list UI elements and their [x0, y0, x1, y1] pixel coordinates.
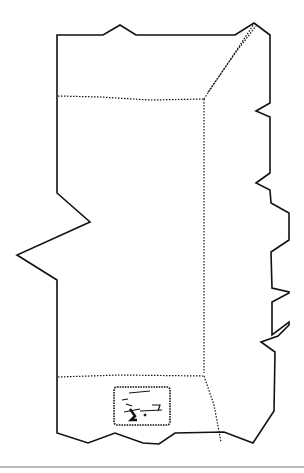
label — [114, 387, 170, 425]
outline — [17, 23, 289, 444]
package-drawing — [0, 0, 304, 473]
fold-diagonal-top-2 — [208, 26, 256, 92]
fold-bottom — [58, 375, 204, 377]
fold-top — [58, 96, 204, 100]
